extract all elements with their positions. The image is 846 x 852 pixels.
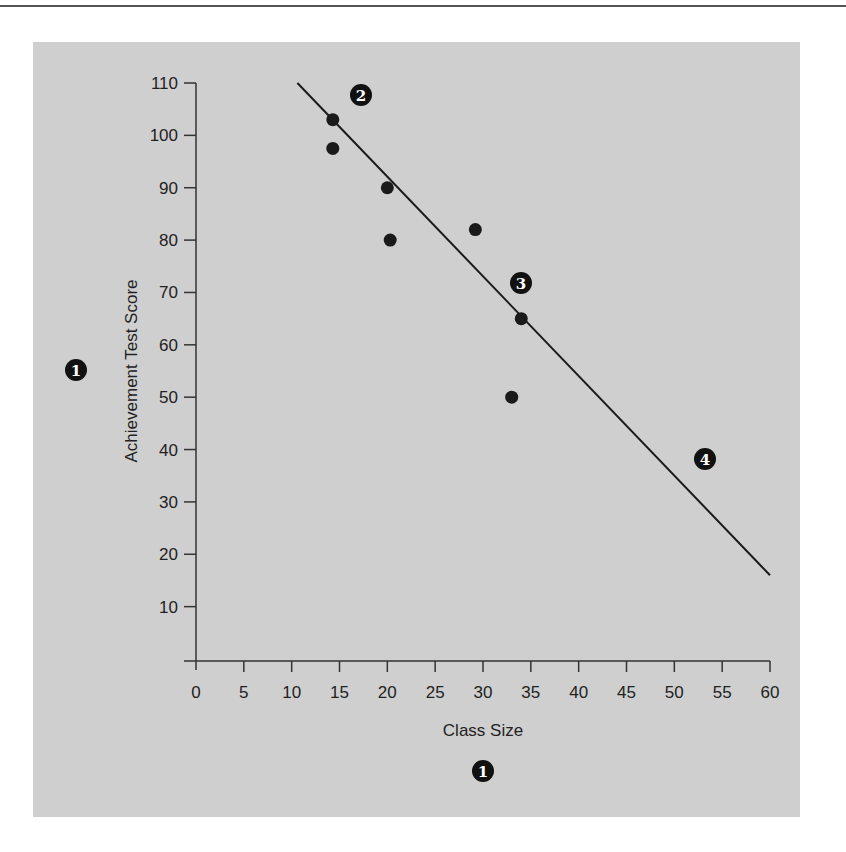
x-tick-label: 30 xyxy=(474,683,493,702)
x-tick-label: 45 xyxy=(617,683,636,702)
data-point xyxy=(384,234,397,247)
y-tick-label: 50 xyxy=(159,388,178,407)
y-tick-label: 80 xyxy=(159,231,178,250)
y-tick-label: 100 xyxy=(150,126,178,145)
x-tick-label: 15 xyxy=(330,683,349,702)
x-tick-label: 0 xyxy=(191,683,200,702)
x-tick-label: 55 xyxy=(713,683,732,702)
svg-text:3: 3 xyxy=(516,275,526,293)
data-point xyxy=(469,223,482,236)
x-tick-label: 25 xyxy=(426,683,445,702)
y-tick-label: 60 xyxy=(159,336,178,355)
y-tick-label: 10 xyxy=(159,598,178,617)
x-tick-label: 20 xyxy=(378,683,397,702)
x-tick-label: 60 xyxy=(761,683,780,702)
data-point xyxy=(515,312,528,325)
x-tick-label: 5 xyxy=(239,683,248,702)
callout-1-y: 1 xyxy=(65,359,87,381)
svg-text:4: 4 xyxy=(700,451,710,469)
y-tick-label: 70 xyxy=(159,283,178,302)
x-axis-title: Class Size xyxy=(443,721,523,740)
y-ticks: 102030405060708090100110 xyxy=(150,74,196,617)
regression-line xyxy=(297,83,770,575)
svg-text:2: 2 xyxy=(356,87,366,105)
x-tick-label: 40 xyxy=(569,683,588,702)
data-point xyxy=(505,391,518,404)
data-point xyxy=(326,113,339,126)
y-axis-title: Achievement Test Score xyxy=(122,280,141,463)
callout-4: 4 xyxy=(694,448,716,470)
data-points xyxy=(326,113,527,404)
y-tick-label: 110 xyxy=(151,74,178,93)
x-tick-label: 50 xyxy=(665,683,684,702)
x-tick-label: 10 xyxy=(282,683,301,702)
x-tick-label: 35 xyxy=(521,683,540,702)
svg-text:1: 1 xyxy=(478,763,488,781)
data-point xyxy=(326,142,339,155)
x-ticks: 051015202530354045505560 xyxy=(191,661,779,702)
callout-3: 3 xyxy=(510,272,532,294)
callout-1-x: 1 xyxy=(472,760,494,782)
y-tick-label: 90 xyxy=(159,179,178,198)
y-tick-label: 40 xyxy=(159,441,178,460)
y-tick-label: 20 xyxy=(159,545,178,564)
svg-text:1: 1 xyxy=(71,362,81,380)
data-point xyxy=(381,181,394,194)
scatter-chart: 051015202530354045505560 102030405060708… xyxy=(0,0,846,852)
callout-2: 2 xyxy=(350,84,372,106)
y-tick-label: 30 xyxy=(159,493,178,512)
